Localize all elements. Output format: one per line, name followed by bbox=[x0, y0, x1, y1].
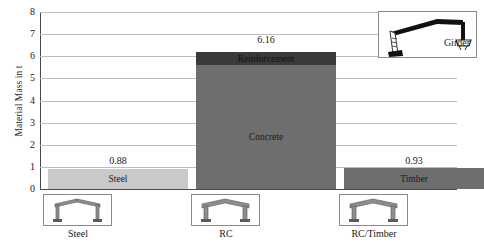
category-label-steel: Steel bbox=[8, 228, 148, 239]
bar-segment-concrete[interactable]: Concrete bbox=[196, 65, 336, 189]
steel-portal-frame-glyph bbox=[44, 195, 111, 225]
bar-value-rc-timber: 0.93 bbox=[344, 155, 484, 166]
x-axis-line bbox=[40, 189, 457, 190]
girder-sketch-icon bbox=[379, 12, 476, 57]
y-tick-6: 6 bbox=[9, 51, 35, 61]
girder-inset-box: Girder bbox=[378, 11, 477, 58]
rc-frame-icon bbox=[191, 194, 260, 226]
y-tick-8: 8 bbox=[9, 7, 35, 17]
rc-timber-portal-frame-glyph bbox=[340, 195, 407, 225]
y-tick-3: 3 bbox=[9, 118, 35, 128]
bar-rc[interactable]: Reinforcement Concrete bbox=[196, 52, 336, 189]
y-tick-5: 5 bbox=[9, 73, 35, 83]
bar-segment-label-steel: Steel bbox=[109, 174, 128, 184]
y-tick-0: 0 bbox=[9, 184, 35, 194]
bar-rc-timber[interactable]: Timber bbox=[344, 168, 484, 189]
bar-segment-timber[interactable]: Timber bbox=[344, 168, 484, 189]
bar-segment-label-timber: Timber bbox=[400, 174, 428, 184]
bar-segment-reinforcement[interactable]: Reinforcement bbox=[196, 52, 336, 65]
bar-segment-label-concrete: Concrete bbox=[249, 132, 283, 142]
y-tick-1: 1 bbox=[9, 162, 35, 172]
bar-segment-steel[interactable]: Steel bbox=[48, 169, 188, 189]
y-tick-7: 7 bbox=[9, 29, 35, 39]
bar-segment-label-reinforcement: Reinforcement bbox=[238, 54, 294, 64]
girder-inset-caption: Girder bbox=[444, 37, 470, 48]
bar-steel[interactable]: Steel bbox=[48, 169, 188, 189]
y-tick-2: 2 bbox=[9, 140, 35, 150]
category-label-rc: RC bbox=[156, 228, 296, 239]
bar-value-steel: 0.88 bbox=[48, 155, 188, 166]
y-tick-4: 4 bbox=[9, 96, 35, 106]
bar-value-rc: 6.16 bbox=[196, 34, 336, 45]
steel-frame-icon bbox=[43, 194, 112, 226]
category-label-rc-timber: RC/Timber bbox=[304, 228, 444, 239]
rc-portal-frame-glyph bbox=[192, 195, 259, 225]
rc-timber-frame-icon bbox=[339, 194, 408, 226]
